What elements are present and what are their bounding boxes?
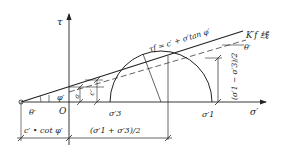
theta-right-label: θ′ [244, 43, 251, 52]
sigma3-label: σ′3 [109, 109, 121, 118]
c-label: c′ [87, 88, 97, 96]
envelope-line-label: K′f 线 [245, 30, 270, 40]
center-dimension-label: (σ′1 + σ′3)/2 [90, 126, 141, 135]
sigma1-label: σ′1 [202, 110, 214, 119]
radius-dimension-label: (σ′1 − σ′3)/2 [230, 52, 239, 100]
sigma-axis-label: σ′ [250, 107, 258, 117]
failure-envelope-line [21, 31, 243, 102]
theta-left-label: θ′ [29, 108, 36, 117]
envelope-equation: τf = c′ + σ′tan φ′ [148, 27, 212, 54]
mohr-coulomb-diagram: τ σ′ O τf = c′ + σ′tan φ′ K′f 线 θ′ σ′3 σ… [0, 0, 287, 158]
tau-axis-label: τ [57, 16, 63, 27]
radius-to-tangent [143, 54, 161, 102]
origin-label: O [59, 106, 67, 116]
phi-label: φ′ [57, 93, 65, 102]
theta-left-arc [40, 96, 41, 102]
left-dimension-label: c′ • cot φ′ [24, 126, 63, 135]
mohr-circle [110, 51, 212, 102]
